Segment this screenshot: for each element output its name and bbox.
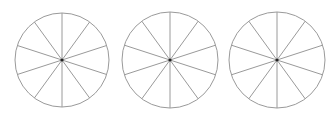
sector-divider: [170, 60, 216, 75]
divided-circle-1: [15, 13, 109, 107]
sector-divider: [17, 60, 62, 75]
sector-divider: [277, 21, 305, 60]
sector-divider: [34, 60, 62, 98]
sector-divider: [170, 60, 198, 99]
center-point: [169, 59, 172, 62]
center-point: [61, 59, 64, 62]
sector-divider: [17, 45, 62, 60]
sector-divider: [142, 60, 170, 99]
sector-divider: [249, 60, 277, 99]
sector-divider: [62, 60, 107, 75]
sector-divider: [277, 60, 323, 75]
sector-divider: [170, 45, 216, 60]
diagram-canvas: [0, 0, 329, 140]
sector-divider: [231, 45, 277, 60]
center-point: [276, 59, 279, 62]
sector-divider: [277, 60, 305, 99]
sector-divider: [170, 21, 198, 60]
sector-divider: [34, 22, 62, 60]
divided-circle-3: [229, 12, 325, 108]
divided-circle-2: [122, 12, 218, 108]
sector-divider: [124, 60, 170, 75]
sector-divider: [142, 21, 170, 60]
sector-divider: [124, 45, 170, 60]
sector-divider: [277, 45, 323, 60]
sector-divider: [62, 45, 107, 60]
sector-divider: [62, 22, 90, 60]
sector-divider: [249, 21, 277, 60]
sector-divider: [231, 60, 277, 75]
sector-divider: [62, 60, 90, 98]
